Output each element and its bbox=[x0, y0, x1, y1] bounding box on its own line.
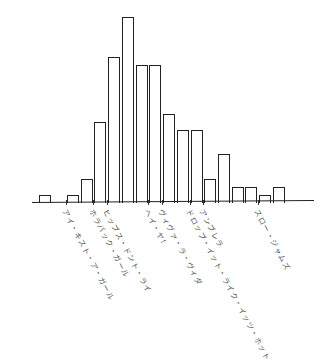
bar bbox=[81, 179, 93, 203]
bar bbox=[218, 154, 230, 203]
x-tick bbox=[258, 200, 259, 205]
bar bbox=[149, 65, 161, 203]
x-tick-label: スロー・ジャムズ bbox=[252, 207, 294, 272]
bar bbox=[191, 130, 203, 203]
bar bbox=[177, 130, 189, 203]
x-tick bbox=[93, 200, 94, 205]
x-tick bbox=[162, 200, 163, 205]
bar bbox=[94, 122, 106, 203]
bar bbox=[136, 65, 148, 203]
x-tick bbox=[190, 200, 191, 205]
x-tick bbox=[203, 200, 204, 205]
x-tick bbox=[66, 200, 67, 205]
bar bbox=[163, 114, 175, 203]
bar bbox=[204, 179, 216, 203]
x-tick bbox=[107, 200, 108, 205]
x-tick bbox=[148, 200, 149, 205]
bar bbox=[108, 57, 120, 203]
bar bbox=[122, 17, 134, 203]
bar bbox=[259, 195, 271, 203]
